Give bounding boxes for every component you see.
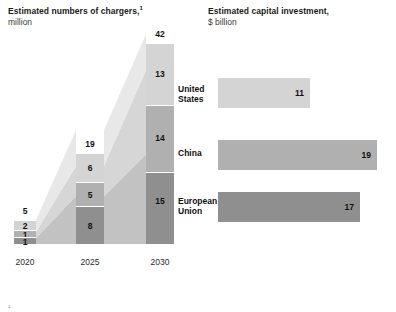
left-chart-title: Estimated numbers of chargers,1 — [8, 6, 143, 17]
total-label-2020: 5 — [14, 207, 36, 216]
segment-2030-china: 14 — [146, 105, 174, 172]
axis-label-2025: 2025 — [76, 258, 104, 267]
axis-label-2030: 2030 — [146, 258, 174, 267]
segment-2020-china: 1 — [14, 230, 36, 237]
footnote-marker: ¹ — [8, 303, 10, 310]
stacked-bar-plot: 5 2 1 1 2020 19 6 5 8 2025 — [0, 28, 200, 280]
segment-value-2025-united-states: 6 — [76, 164, 104, 173]
right-chart-title: Estimated capital investment, — [208, 6, 329, 17]
segment-value-2020-european-union: 1 — [14, 238, 36, 247]
investment-value-european-union: 17 — [345, 203, 354, 212]
investment-bar-china: 19 — [218, 140, 377, 170]
investment-value-china: 19 — [362, 151, 371, 160]
segment-value-2030-china: 14 — [146, 134, 174, 143]
left-chart-subtitle: million — [8, 17, 32, 28]
investment-bar-united-states: 11 — [218, 78, 310, 108]
chargers-chart-panel: Estimated numbers of chargers,1 million … — [0, 0, 200, 312]
segment-value-2025-european-union: 8 — [76, 222, 104, 231]
right-chart-subtitle: $ billion — [208, 17, 237, 28]
investment-chart-panel: Estimated capital investment, $ billion … — [200, 0, 396, 312]
segment-2025-european-union: 8 — [76, 206, 104, 244]
series-label-china: China — [178, 148, 202, 158]
segment-value-2030-european-union: 15 — [146, 197, 174, 206]
stacked-bar-2025: 19 6 5 8 2025 — [76, 153, 104, 244]
segment-2025-united-states: 6 — [76, 153, 104, 182]
segment-value-2030-united-states: 13 — [146, 70, 174, 79]
stacked-bar-2020: 5 2 1 1 2020 — [14, 220, 36, 244]
left-chart-title-footnote-marker: 1 — [139, 5, 142, 11]
investment-value-united-states: 11 — [295, 89, 304, 98]
segment-2030-european-union: 15 — [146, 172, 174, 244]
segment-2025-china: 5 — [76, 182, 104, 206]
total-label-2025: 19 — [76, 140, 104, 149]
segment-value-2025-china: 5 — [76, 191, 104, 200]
segment-2020-european-union: 1 — [14, 237, 36, 244]
investment-bar-european-union: 17 — [218, 192, 360, 222]
segment-2020-united-states: 2 — [14, 220, 36, 230]
left-chart-title-text: Estimated numbers of chargers, — [8, 6, 139, 16]
stacked-bar-2030: 42 13 14 15 2030 — [146, 43, 174, 244]
total-label-2030: 42 — [146, 30, 174, 39]
segment-2030-united-states: 13 — [146, 43, 174, 105]
axis-label-2020: 2020 — [14, 258, 36, 267]
